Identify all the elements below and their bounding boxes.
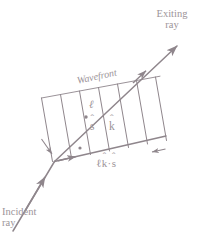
incident-ray-label-line2: ray [2,217,60,228]
incident-ray-label-line1: Incident [2,206,60,217]
left-normal-arrow [42,139,53,154]
wavefront-line-7 [156,77,167,141]
path-difference-formula: ℓˆk·ˆs [96,158,116,170]
wavefront-lines [42,77,167,162]
incident-ray-label: Incident ray [2,206,60,228]
ell-label: ℓ [89,99,94,111]
s-hat-label: ˆ s [90,120,94,132]
right-normal-arrow [152,149,166,152]
exiting-ray-label-line2: ray [146,19,198,30]
s-hat-glyph: ˆ s [90,120,94,132]
formula-s-hat: ˆs [112,158,117,170]
k-hat-accent: ˆ [110,114,114,125]
s-hat-accent: ˆ [90,114,94,125]
baseline-intersection-dot [78,146,81,149]
ray-intersection-dot [84,115,87,118]
baseline-direction-arrow [58,157,76,161]
wavefront-diagram: Exiting ray Incident ray Wavefront ℓ ˆ s… [0,0,202,243]
formula-s-accent: ˆ [112,152,116,162]
exiting-ray [55,46,178,162]
exiting-ray-label: Exiting ray [146,8,198,30]
formula-k-hat: ˆk [102,158,108,170]
k-hat-label: ˆ k [109,120,115,132]
wavefront-line-6 [137,81,148,145]
formula-k-accent: ˆ [103,152,107,162]
exiting-ray-label-line1: Exiting [146,8,198,19]
k-hat-glyph: ˆ k [109,120,115,132]
wavefront-line-2 [61,95,72,159]
